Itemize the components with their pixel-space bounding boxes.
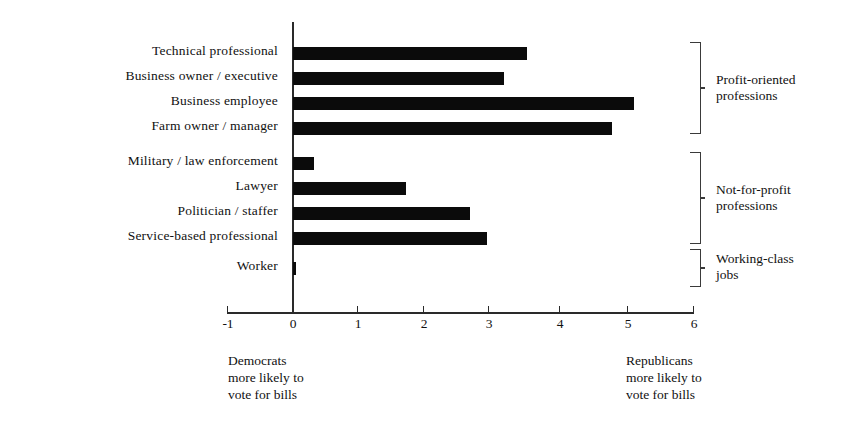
bracket-label-profit-oriented: Profit-oriented professions bbox=[716, 72, 795, 104]
bar-worker bbox=[293, 262, 296, 275]
x-tick-mark-4 bbox=[559, 306, 560, 313]
caption-republicans-line3: vote for bills bbox=[626, 386, 702, 403]
x-tick-label-6: 6 bbox=[674, 316, 714, 332]
bar-technical-professional bbox=[293, 47, 527, 60]
bracket-not-for-profit bbox=[690, 152, 701, 244]
x-tick-label-1: 1 bbox=[338, 316, 378, 332]
caption-democrats: Democrats more likely to vote for bills bbox=[228, 352, 304, 403]
bracket-profit-oriented bbox=[690, 42, 701, 134]
bracket-label-not-for-profit-line2: professions bbox=[716, 198, 791, 214]
bar-lawyer bbox=[293, 182, 406, 195]
bar-military-law-enforcement bbox=[293, 157, 314, 170]
x-tick-label-4: 4 bbox=[540, 316, 580, 332]
bar-service-based-professional bbox=[293, 232, 487, 245]
bracket-label-not-for-profit: Not-for-profit professions bbox=[716, 182, 791, 214]
bracket-label-working-class-line2: jobs bbox=[716, 267, 794, 283]
bar-chart: Technical professional Business owner / … bbox=[0, 0, 848, 430]
caption-republicans: Republicans more likely to vote for bill… bbox=[626, 352, 702, 403]
bracket-label-profit-oriented-line1: Profit-oriented bbox=[716, 72, 795, 88]
bar-politician-staffer bbox=[293, 207, 470, 220]
x-tick-mark-0 bbox=[292, 306, 293, 313]
x-tick-label-minus1: -1 bbox=[208, 316, 248, 332]
x-tick-mark-2 bbox=[423, 306, 424, 313]
x-tick-label-3: 3 bbox=[469, 316, 509, 332]
caption-republicans-line2: more likely to bbox=[626, 369, 702, 386]
caption-democrats-line3: vote for bills bbox=[228, 386, 304, 403]
bar-farm-owner-manager bbox=[293, 122, 612, 135]
bar-business-owner-executive bbox=[293, 72, 504, 85]
bracket-label-working-class: Working-class jobs bbox=[716, 251, 794, 283]
bracket-label-working-class-line1: Working-class bbox=[716, 251, 794, 267]
x-tick-mark-1 bbox=[357, 306, 358, 313]
bracket-label-profit-oriented-line2: professions bbox=[716, 88, 795, 104]
x-tick-mark-3 bbox=[488, 306, 489, 313]
x-tick-mark-6 bbox=[693, 306, 694, 313]
x-tick-label-2: 2 bbox=[404, 316, 444, 332]
caption-republicans-line1: Republicans bbox=[626, 352, 702, 369]
x-tick-label-5: 5 bbox=[608, 316, 648, 332]
x-tick-mark-5 bbox=[627, 306, 628, 313]
bar-business-employee bbox=[293, 97, 634, 110]
bracket-label-not-for-profit-line1: Not-for-profit bbox=[716, 182, 791, 198]
x-tick-label-0: 0 bbox=[273, 316, 313, 332]
x-tick-mark-minus1 bbox=[227, 306, 228, 313]
caption-democrats-line2: more likely to bbox=[228, 369, 304, 386]
bracket-working-class bbox=[690, 249, 701, 287]
x-axis-line bbox=[227, 312, 694, 314]
caption-democrats-line1: Democrats bbox=[228, 352, 304, 369]
